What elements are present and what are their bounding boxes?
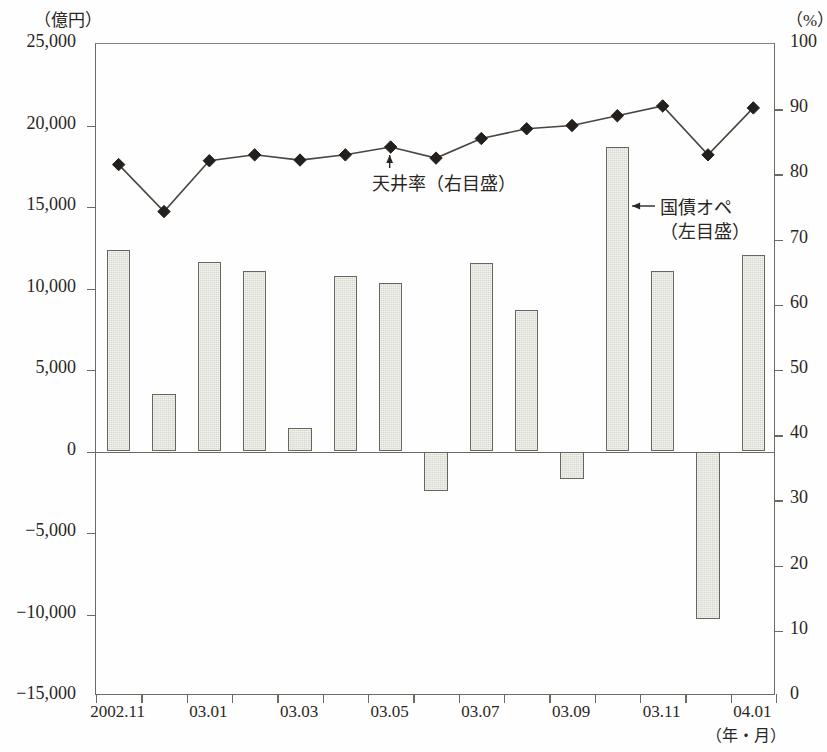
arrow-jgb-operations bbox=[632, 203, 655, 210]
arrow-ceiling-rate bbox=[386, 155, 393, 168]
